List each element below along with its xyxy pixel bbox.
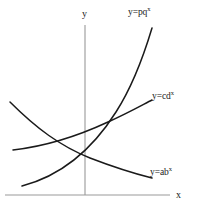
curve-label-pq: y=pqx bbox=[128, 8, 150, 18]
y-axis-label: y bbox=[82, 9, 87, 19]
curve-label-ab: y=abx bbox=[150, 168, 172, 178]
curve-exponential-growth-fast bbox=[22, 28, 152, 186]
plot-canvas bbox=[0, 0, 198, 216]
curve-label-cd: y=cdx bbox=[152, 92, 174, 102]
exponential-functions-figure: y=pqx y=cdx y=abx y x bbox=[0, 0, 198, 216]
x-axis-label: x bbox=[176, 190, 181, 200]
curve-exponential-growth-slow bbox=[13, 100, 152, 150]
curve-exponential-decay bbox=[10, 102, 152, 178]
